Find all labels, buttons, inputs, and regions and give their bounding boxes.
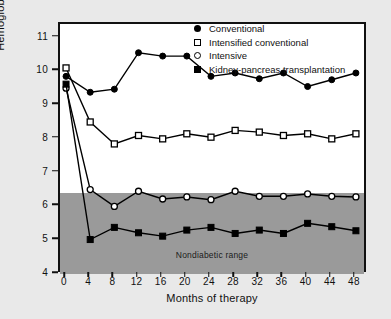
data-point — [353, 194, 359, 200]
x-axis-tick-label: 36 — [276, 276, 288, 287]
legend-item: Intensified conventional — [190, 36, 345, 50]
y-axis-tick-label: 9 — [8, 98, 48, 109]
legend-item-label: Intensified conventional — [209, 36, 308, 50]
x-axis-tick-mark — [63, 272, 65, 277]
y-axis-tick-label: 7 — [8, 165, 48, 176]
legend-marker-glyph — [194, 25, 201, 32]
data-point — [87, 119, 93, 125]
data-point — [111, 224, 117, 230]
data-point — [136, 230, 142, 236]
x-axis-tick-mark — [136, 272, 138, 277]
y-axis-tick-label: 10 — [8, 64, 48, 75]
x-axis-tick-mark — [87, 272, 89, 277]
x-axis-tick-mark — [232, 272, 234, 277]
legend-item-label: Intensive — [209, 49, 247, 63]
data-point — [184, 227, 190, 233]
data-point — [136, 50, 142, 56]
x-axis-tick-label: 24 — [203, 276, 215, 287]
x-axis-tick-mark — [257, 272, 259, 277]
data-point — [353, 228, 359, 234]
data-point — [208, 134, 214, 140]
x-axis-tick-mark — [329, 272, 331, 277]
legend-item: Intensive — [190, 49, 345, 63]
legend-marker-glyph — [194, 39, 201, 46]
data-point — [160, 233, 166, 239]
x-axis-tick-mark — [208, 272, 210, 277]
y-axis-tick-label: 4 — [8, 267, 48, 278]
series-line — [66, 88, 356, 206]
data-point — [280, 193, 286, 199]
data-point — [208, 224, 214, 230]
y-axis-tick-label: 5 — [8, 233, 48, 244]
data-point — [111, 141, 117, 147]
data-point — [87, 89, 93, 95]
x-axis-tick-mark — [353, 272, 355, 277]
chart-figure: Nondiabetic range 4567891011 04812162024… — [0, 0, 391, 319]
data-point — [111, 203, 117, 209]
data-point — [329, 224, 335, 230]
series-kidney-pancreas-transplantation — [63, 81, 359, 242]
data-point — [63, 65, 69, 71]
data-point — [232, 127, 238, 133]
data-point — [256, 193, 262, 199]
data-point — [329, 136, 335, 142]
x-axis-tick-label: 44 — [324, 276, 336, 287]
legend-marker-glyph — [194, 66, 201, 73]
data-point — [87, 187, 93, 193]
data-point — [305, 191, 311, 197]
x-axis-tick-label: 28 — [227, 276, 239, 287]
x-axis-tick-label: 4 — [85, 276, 91, 287]
x-axis-tick-mark — [305, 272, 307, 277]
x-axis-tick-label: 0 — [61, 276, 67, 287]
x-axis-title: Months of therapy — [58, 292, 366, 304]
data-point — [305, 131, 311, 137]
y-axis-tick-label: 6 — [8, 199, 48, 210]
x-axis-tick-mark — [160, 272, 162, 277]
x-axis-tick-label: 12 — [131, 276, 143, 287]
x-axis-tick-mark — [184, 272, 186, 277]
data-point — [160, 136, 166, 142]
data-point — [160, 53, 166, 59]
x-axis-tick-label: 8 — [109, 276, 115, 287]
data-point — [232, 230, 238, 236]
open-square-icon — [190, 39, 204, 46]
series-line — [66, 84, 356, 239]
x-axis-tick-mark — [281, 272, 283, 277]
data-point — [353, 131, 359, 137]
data-point — [280, 132, 286, 138]
data-point — [184, 53, 190, 59]
y-axis-tick-label: 8 — [8, 131, 48, 142]
x-axis-tick-label: 20 — [179, 276, 191, 287]
legend-item: Kidney-pancreas transplantation — [190, 63, 345, 77]
data-point — [256, 76, 262, 82]
data-point — [63, 81, 69, 87]
data-point — [184, 194, 190, 200]
y-axis-tick-mark — [52, 237, 58, 239]
y-axis-tick-mark — [52, 204, 58, 206]
chart-legend: ConventionalIntensified conventionalInte… — [190, 22, 345, 76]
filled-circle-icon — [190, 25, 204, 32]
x-axis-tick-label: 32 — [251, 276, 263, 287]
filled-square-icon — [190, 66, 204, 73]
data-point — [208, 197, 214, 203]
x-axis-tick-label: 40 — [300, 276, 312, 287]
data-point — [232, 188, 238, 194]
data-point — [136, 188, 142, 194]
data-point — [160, 196, 166, 202]
y-axis-title: Hemoglobin A1c, % — [0, 0, 9, 78]
series-intensive — [63, 85, 359, 209]
legend-item: Conventional — [190, 22, 345, 36]
open-circle-icon — [190, 52, 204, 59]
legend-item-label: Kidney-pancreas transplantation — [209, 63, 345, 77]
data-point — [329, 193, 335, 199]
x-axis-tick-label: 48 — [348, 276, 360, 287]
data-point — [256, 227, 262, 233]
data-point — [280, 230, 286, 236]
y-axis-tick-mark — [52, 102, 58, 104]
data-point — [111, 86, 117, 92]
y-axis-tick-mark — [52, 271, 58, 273]
data-point — [353, 70, 359, 76]
data-point — [305, 220, 311, 226]
data-point — [305, 84, 311, 90]
y-axis-tick-label: 11 — [8, 30, 48, 41]
